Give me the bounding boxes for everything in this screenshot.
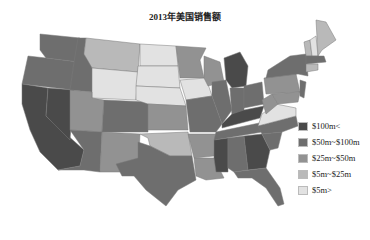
state-wy (92, 68, 138, 100)
state-ct (306, 64, 318, 72)
state-ks (148, 104, 188, 130)
legend-swatch (298, 122, 308, 131)
legend-item: $100m< (298, 118, 360, 134)
state-mn (176, 46, 206, 78)
state-fl (234, 168, 284, 206)
legend-label: $25m~$50m (312, 153, 355, 163)
legend: $100m< $50m~$100m $25m~$50m $5m~$25m $5m… (298, 118, 360, 198)
state-nj (300, 80, 306, 98)
state-sd (136, 66, 180, 88)
legend-label: $5m~$25m (312, 169, 351, 179)
legend-swatch (298, 186, 308, 195)
legend-item: $5m~$25m (298, 166, 360, 182)
legend-label: $5m> (312, 185, 332, 195)
state-ar (188, 134, 216, 158)
legend-item: $25m~$50m (298, 150, 360, 166)
state-nd (140, 44, 178, 66)
state-oh (244, 82, 264, 108)
state-ny (266, 54, 308, 78)
state-or (22, 56, 78, 90)
state-ms (214, 138, 228, 172)
legend-label: $100m< (312, 121, 340, 131)
legend-item: $50m~$100m (298, 134, 360, 150)
state-mi (224, 52, 248, 88)
legend-swatch (298, 170, 308, 179)
state-me (316, 20, 336, 56)
legend-swatch (298, 138, 308, 147)
legend-label: $50m~$100m (312, 137, 360, 147)
state-co (102, 100, 148, 132)
state-mt (84, 38, 140, 72)
legend-swatch (298, 154, 308, 163)
state-ma (306, 56, 326, 64)
legend-item: $5m> (298, 182, 360, 198)
